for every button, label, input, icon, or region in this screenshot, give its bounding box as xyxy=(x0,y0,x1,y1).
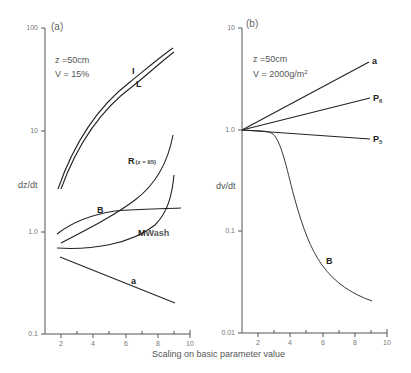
panel-a-note-z: z =50cm xyxy=(55,55,89,65)
panel-b-xtick: 8 xyxy=(353,339,357,346)
panel-b-xtick: 2 xyxy=(256,339,260,346)
panel-b-xtick: 10 xyxy=(383,339,391,346)
panel-b-xtick: 4 xyxy=(288,339,292,346)
label-P5: P5 xyxy=(373,134,383,145)
panel-a-xtick: 4 xyxy=(91,340,95,347)
label-B: B xyxy=(97,205,104,215)
panel-a-xtick: 10 xyxy=(186,340,194,347)
panel-b-ytick-0.01: 0.01 xyxy=(221,329,235,336)
x-axis-label: Scaling on basic parameter value xyxy=(152,349,285,359)
panel-a-ytick-10: 10 xyxy=(30,127,38,134)
panel-b-ytick-10: 10 xyxy=(227,24,235,31)
label-L: L xyxy=(136,79,142,89)
panel-a-note-v: V = 15% xyxy=(55,69,89,79)
label-M-wash: MWash xyxy=(138,228,169,238)
panel-b-note-z: z =50cm xyxy=(253,54,287,64)
panel-b-ytick-0.1: 0.1 xyxy=(225,227,235,234)
label-I: I xyxy=(132,66,135,76)
panel-a-tag: (a) xyxy=(51,21,63,32)
panel-a-xtick: 8 xyxy=(156,340,160,347)
panel-a-xtick: 2 xyxy=(59,340,63,347)
label-P6: P6 xyxy=(373,93,383,104)
curve-P6 xyxy=(242,98,370,130)
panel-b-ytick-1: 1.0 xyxy=(225,126,235,133)
chart-figure: 100 10 1.0 0.1 2 4 6 8 10 (a) z =50cm V … xyxy=(0,0,411,373)
panel-a-ytick-100: 100 xyxy=(26,24,38,31)
curve-B-b xyxy=(242,130,372,301)
label-a-b: a xyxy=(372,56,378,66)
panel-a-xtick: 6 xyxy=(124,340,128,347)
panel-a-ytick-1: 1.0 xyxy=(28,228,38,235)
panel-b-ylabel: dv/dt xyxy=(216,181,236,191)
panel-a-curves xyxy=(57,48,181,303)
panel-a-ytick-0.1: 0.1 xyxy=(28,330,38,337)
panel-b-tag: (b) xyxy=(246,18,258,29)
panel-b-note-v: V = 2000g/m2 xyxy=(253,69,308,79)
panel-a-ylabel: dz/dt xyxy=(18,180,38,190)
label-a: a xyxy=(131,276,137,286)
curve-a xyxy=(60,257,175,303)
panel-b-xtick: 6 xyxy=(321,339,325,346)
label-B-b: B xyxy=(326,256,333,266)
label-R: R(z = 95) xyxy=(128,156,156,166)
panel-b-curves xyxy=(242,62,372,301)
